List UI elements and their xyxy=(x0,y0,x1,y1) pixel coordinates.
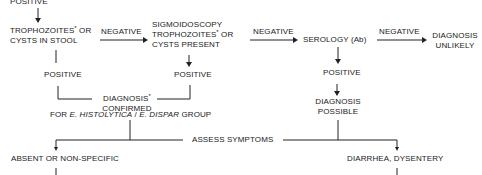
unlikely-line2: UNLIKELY xyxy=(430,41,480,51)
organism-group-label: FOR E. HISTOLYTICA / E. DISPAR GROUP xyxy=(50,110,211,120)
organism-histolytica: E. HISTOLYTICA xyxy=(70,110,133,119)
stool-line1: TROPHOZOITES xyxy=(10,26,74,35)
sigmoidoscopy-node: SIGMOIDOSCOPY TROPHOZOITES* OR CYSTS PRE… xyxy=(152,20,233,50)
possible-line1: DIAGNOSIS xyxy=(312,97,364,107)
group-suffix: GROUP xyxy=(179,110,211,119)
serology-node: SEROLOGY (Ab) xyxy=(303,35,366,45)
sigmoid-line3: CYSTS PRESENT xyxy=(152,40,233,50)
diagnosis-possible-node: DIAGNOSIS POSSIBLE xyxy=(312,97,364,117)
group-prefix: FOR xyxy=(50,110,70,119)
confirmed-line1: DIAGNOSIS xyxy=(103,94,148,103)
top-positive-label: POSITIVE xyxy=(10,0,48,7)
stool-line2: CYSTS IN STOOL xyxy=(10,36,91,46)
sigmoid-line2: TROPHOZOITES xyxy=(152,30,216,39)
sigmoid-line2-tail: OR xyxy=(219,30,234,39)
serology-positive-label: POSITIVE xyxy=(323,68,361,78)
possible-line2: POSSIBLE xyxy=(312,107,364,117)
organism-dispar: E. DISPAR xyxy=(139,110,179,119)
diarrhea-dysentery-node: DIARRHEA, DYSENTERY xyxy=(347,154,443,164)
sigmoid-positive-label: POSITIVE xyxy=(174,70,212,80)
diagnosis-unlikely-node: DIAGNOSIS UNLIKELY xyxy=(430,31,480,51)
sigmoid-negative-label: NEGATIVE xyxy=(253,27,294,37)
serology-negative-label: NEGATIVE xyxy=(379,27,420,37)
stool-positive-label: POSITIVE xyxy=(44,70,82,80)
unlikely-line1: DIAGNOSIS xyxy=(430,31,480,41)
absent-nonspecific-node: ABSENT OR NON-SPECIFIC xyxy=(11,154,119,164)
stool-line1-tail: OR xyxy=(77,26,92,35)
sigmoid-line1: SIGMOIDOSCOPY xyxy=(152,20,233,30)
assess-symptoms-node: ASSESS SYMPTOMS xyxy=(192,135,273,145)
stool-node: TROPHOZOITES* OR CYSTS IN STOOL xyxy=(10,26,91,46)
asterisk-mark: * xyxy=(148,93,150,99)
stool-negative-label: NEGATIVE xyxy=(101,27,142,37)
